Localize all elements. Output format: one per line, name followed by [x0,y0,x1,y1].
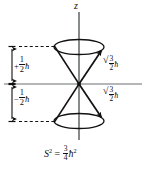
lower-magnitude-label: √32ħ [103,86,118,103]
lower-dimension-hbar-symbol: ħ [25,94,29,104]
equation-equals-sign: = [55,148,61,159]
lower-magnitude-hbar-symbol: ħ [114,91,118,100]
equation-rhs-exponent: 2 [73,147,76,154]
upper-dimension-hbar-symbol: ħ [25,61,29,71]
spin-squared-equation: S2 = 34ħ2 [44,145,77,161]
upper-dimension-label: +12ħ [14,55,29,74]
z-axis-label: z [74,1,78,11]
upper-magnitude-label: √32ħ [103,55,118,72]
equation-lhs-exponent: 2 [49,147,52,154]
upper-magnitude-hbar-symbol: ħ [114,60,118,69]
lower-dimension-label: −12ħ [14,88,29,107]
spin-cone-diagram [0,0,146,169]
origin-point [77,82,81,86]
